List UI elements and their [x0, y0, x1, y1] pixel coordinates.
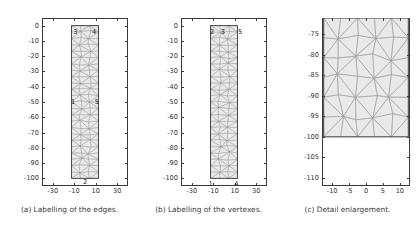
y-tick-mark: [181, 163, 184, 164]
y-tick-label: -80: [167, 145, 178, 152]
mesh-label-5: 5: [238, 28, 242, 35]
y-tick-mark: [264, 102, 267, 103]
y-tick-mark: [42, 41, 45, 42]
panel-c: -75-80-85-90-95-100-105-110-10-50510(c) …: [278, 0, 417, 237]
y-tick-mark: [125, 87, 128, 88]
y-axis-labels-c: -75-80-85-90-95-100-105-110: [278, 18, 319, 186]
x-tick-mark: [117, 18, 118, 21]
y-tick-mark: [322, 55, 325, 56]
y-tick-mark: [181, 117, 184, 118]
y-tick-label: 0: [35, 22, 39, 29]
y-tick-label: -60: [167, 114, 178, 121]
y-tick-mark: [181, 133, 184, 134]
x-tick-mark: [366, 183, 367, 186]
y-tick-label: -30: [167, 68, 178, 75]
y-tick-mark: [125, 41, 128, 42]
figure-panels: 0-10-20-30-40-50-60-70-80-90-10034152-30…: [0, 0, 417, 237]
y-tick-label: -50: [167, 99, 178, 106]
y-tick-mark: [264, 163, 267, 164]
y-tick-label: -80: [28, 145, 39, 152]
y-tick-mark: [322, 157, 325, 158]
y-tick-mark: [42, 133, 45, 134]
y-tick-label: -70: [167, 129, 178, 136]
y-tick-mark: [181, 41, 184, 42]
y-tick-mark: [264, 71, 267, 72]
mesh-label-1: 1: [208, 180, 212, 187]
y-tick-mark: [42, 117, 45, 118]
y-tick-mark: [322, 96, 325, 97]
x-tick-label: 0: [364, 188, 368, 195]
x-tick-mark: [235, 18, 236, 21]
mesh-label-4: 4: [92, 28, 96, 35]
y-tick-mark: [125, 56, 128, 57]
y-tick-mark: [264, 133, 267, 134]
x-tick-label: 10: [92, 188, 100, 195]
y-tick-label: -100: [163, 175, 178, 182]
y-tick-mark: [407, 96, 410, 97]
y-tick-mark: [322, 116, 325, 117]
y-tick-mark: [42, 56, 45, 57]
mesh-label-1: 1: [71, 99, 75, 106]
y-tick-mark: [264, 87, 267, 88]
x-tick-label: -10: [327, 188, 338, 195]
y-tick-label: -10: [28, 38, 39, 45]
mesh-c: [322, 18, 410, 186]
y-tick-mark: [181, 71, 184, 72]
x-tick-mark: [400, 183, 401, 186]
y-tick-mark: [125, 148, 128, 149]
y-tick-mark: [181, 56, 184, 57]
plot-area-b: 23514: [181, 18, 267, 186]
y-tick-label: -90: [167, 160, 178, 167]
y-tick-mark: [264, 178, 267, 179]
mesh-label-3: 3: [73, 28, 77, 35]
y-tick-label: -80: [308, 52, 319, 59]
y-tick-label: -10: [167, 38, 178, 45]
y-tick-label: -90: [308, 93, 319, 100]
y-tick-mark: [264, 56, 267, 57]
x-tick-mark: [213, 18, 214, 21]
y-tick-mark: [181, 102, 184, 103]
mesh-a: [42, 18, 128, 186]
mesh-label-5: 5: [95, 99, 99, 106]
x-tick-mark: [349, 18, 350, 21]
x-tick-label: -30: [186, 188, 197, 195]
x-tick-mark: [192, 183, 193, 186]
x-tick-mark: [74, 18, 75, 21]
y-axis-labels-a: 0-10-20-30-40-50-60-70-80-90-100: [0, 18, 39, 186]
y-tick-mark: [125, 26, 128, 27]
x-tick-mark: [53, 18, 54, 21]
y-tick-mark: [322, 75, 325, 76]
x-tick-mark: [117, 183, 118, 186]
caption-c: (c) Detail enlargement.: [278, 205, 417, 214]
y-tick-mark: [407, 178, 410, 179]
y-tick-mark: [125, 71, 128, 72]
y-tick-mark: [181, 178, 184, 179]
y-tick-mark: [407, 116, 410, 117]
y-tick-mark: [322, 137, 325, 138]
y-tick-label: -85: [308, 72, 319, 79]
y-tick-mark: [264, 148, 267, 149]
y-tick-label: -50: [28, 99, 39, 106]
x-axis-labels-b: -30-101030: [181, 188, 267, 200]
x-tick-mark: [96, 18, 97, 21]
y-tick-mark: [264, 41, 267, 42]
y-tick-label: -75: [308, 31, 319, 38]
x-tick-mark: [366, 18, 367, 21]
x-tick-mark: [53, 183, 54, 186]
mesh-label-4: 4: [234, 180, 238, 187]
x-tick-mark: [383, 18, 384, 21]
y-tick-label: -100: [24, 175, 39, 182]
y-tick-mark: [125, 117, 128, 118]
y-tick-label: -20: [167, 53, 178, 60]
y-tick-mark: [181, 87, 184, 88]
y-tick-label: -60: [28, 114, 39, 121]
x-tick-mark: [383, 183, 384, 186]
y-tick-mark: [407, 75, 410, 76]
y-tick-mark: [42, 26, 45, 27]
x-tick-mark: [96, 183, 97, 186]
y-tick-mark: [322, 34, 325, 35]
x-tick-mark: [349, 183, 350, 186]
x-tick-mark: [74, 183, 75, 186]
x-tick-mark: [400, 18, 401, 21]
panel-b: 0-10-20-30-40-50-60-70-80-90-10023514-30…: [139, 0, 278, 237]
